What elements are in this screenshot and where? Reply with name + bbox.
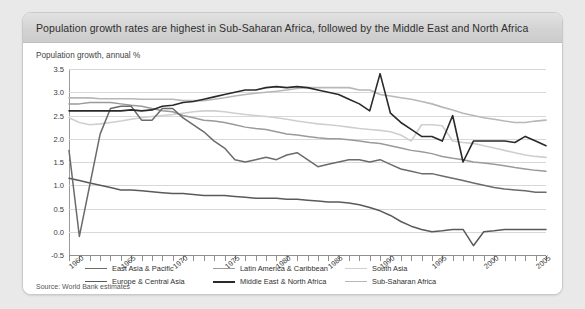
legend-label: South Asia	[372, 264, 407, 273]
x-tick	[245, 256, 246, 261]
x-tick	[453, 256, 454, 261]
x-tick	[204, 256, 205, 261]
x-tick	[152, 256, 153, 261]
legend-swatch	[345, 268, 367, 269]
x-tick	[463, 256, 464, 261]
x-tick	[100, 256, 101, 261]
chart-card: Population growth rates are highest in S…	[22, 12, 563, 295]
x-tick	[473, 256, 474, 261]
x-tick	[318, 256, 319, 261]
y-tick-label: 1.5	[53, 158, 64, 167]
y-tick-label: 0.0	[53, 227, 64, 236]
card-header: Population growth rates are highest in S…	[23, 13, 562, 43]
x-tick	[359, 256, 360, 261]
source-note: Source: World Bank estimates	[36, 283, 130, 290]
x-tick	[162, 256, 163, 261]
x-tick	[214, 256, 215, 261]
x-tick	[411, 256, 412, 261]
x-tick	[90, 256, 91, 261]
x-tick	[422, 256, 423, 261]
y-tick-label: 3.0	[53, 88, 64, 97]
series-line	[69, 106, 546, 236]
x-tick	[297, 256, 298, 261]
series-line	[69, 102, 546, 171]
legend-label: Latin America & Caribbean	[240, 264, 328, 273]
legend-item[interactable]: Latin America & Caribbean	[213, 264, 345, 273]
legend-label: Middle East & North Africa	[240, 277, 326, 286]
y-tick-label: 1.0	[53, 181, 64, 190]
screenshot-root: Population growth rates are highest in S…	[0, 0, 585, 309]
x-tick	[266, 256, 267, 261]
x-tick	[515, 256, 516, 261]
series-line	[69, 178, 546, 245]
x-tick	[349, 256, 350, 261]
chart-subtitle: Population growth, annual %	[36, 51, 140, 60]
x-tick	[370, 256, 371, 261]
plot-area: 3.53.02.52.01.51.00.50.0-0.5 19601965197…	[69, 69, 546, 255]
legend-item[interactable]: South Asia	[345, 264, 436, 273]
y-tick-label: 0.5	[53, 204, 64, 213]
legend-item[interactable]: Sub-Saharan Africa	[345, 277, 436, 286]
legend-label: Sub-Saharan Africa	[372, 277, 436, 286]
legend-label: East Asia & Pacific	[112, 264, 174, 273]
card-body: Population growth, annual % 3.53.02.52.0…	[23, 43, 562, 295]
y-tick-label: 3.5	[53, 65, 64, 74]
legend-swatch	[213, 268, 235, 269]
x-tick	[142, 256, 143, 261]
x-tick	[256, 256, 257, 261]
legend-swatch	[85, 268, 107, 269]
x-tick	[525, 256, 526, 261]
legend-swatch	[345, 281, 367, 282]
series-lines	[69, 69, 546, 255]
x-tick	[193, 256, 194, 261]
page-title: Population growth rates are highest in S…	[36, 22, 528, 34]
y-tick-label: 2.5	[53, 111, 64, 120]
x-tick	[308, 256, 309, 261]
legend-swatch	[213, 281, 235, 283]
x-tick	[505, 256, 506, 261]
y-tick-label: 2.0	[53, 134, 64, 143]
x-tick	[110, 256, 111, 261]
legend-item[interactable]: Middle East & North Africa	[213, 277, 345, 286]
y-tick-label: -0.5	[51, 251, 64, 260]
legend-item[interactable]: East Asia & Pacific	[85, 264, 213, 273]
x-tick	[401, 256, 402, 261]
legend-swatch	[85, 281, 107, 282]
